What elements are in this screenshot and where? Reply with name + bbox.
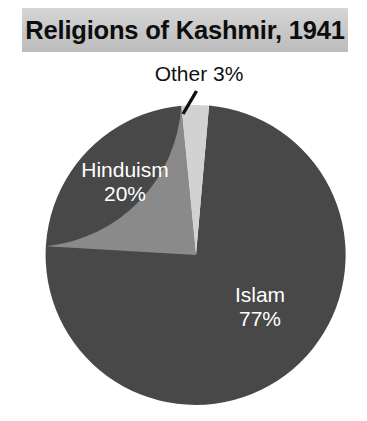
slice-label-islam-name: Islam — [198, 283, 322, 307]
pie-chart-figure: Religions of Kashmir, 1941 Other 3% Hind… — [0, 0, 367, 421]
slice-label-hinduism: Hinduism 20% — [52, 158, 198, 207]
slice-label-other: Other 3% — [124, 62, 274, 86]
slice-label-islam: Islam 77% — [198, 283, 322, 332]
slice-label-hinduism-value: 20% — [52, 182, 198, 206]
slice-label-other-text: Other 3% — [155, 62, 244, 85]
slice-label-hinduism-name: Hinduism — [52, 158, 198, 182]
slice-label-islam-value: 77% — [198, 307, 322, 331]
